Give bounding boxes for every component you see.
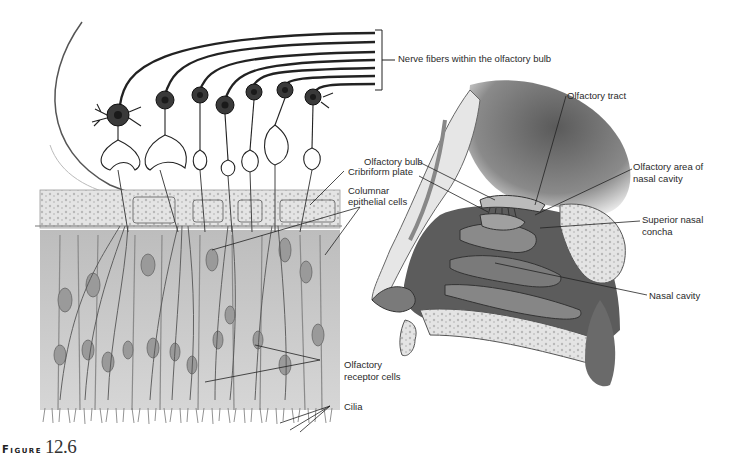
label-nerve-fibers: Nerve fibers within the olfactory bulb bbox=[398, 53, 551, 64]
nasal-cavity-illustration bbox=[372, 80, 647, 386]
label-nasal-cavity: Nasal cavity bbox=[649, 290, 700, 301]
label-cribriform-plate: Cribriform plate bbox=[348, 166, 413, 177]
olfactory-diagram bbox=[0, 0, 730, 460]
figure-number: 12.6 bbox=[45, 436, 76, 457]
label-olfactory-tract: Olfactory tract bbox=[567, 90, 626, 101]
label-receptor-line2: receptor cells bbox=[344, 371, 401, 382]
label-cilia: Cilia bbox=[344, 401, 362, 412]
label-columnar-line2: epithelial cells bbox=[348, 196, 407, 207]
figure-caption: Figure12.6 bbox=[2, 436, 76, 458]
figure-word: Figure bbox=[2, 444, 42, 455]
label-superior-concha-line2: concha bbox=[642, 226, 673, 237]
label-superior-concha-line1: Superior nasal bbox=[642, 214, 703, 225]
label-olfactory-area-line1: Olfactory area of bbox=[633, 161, 703, 172]
label-olfactory-area-line2: nasal cavity bbox=[633, 173, 683, 184]
label-columnar-line1: Columnar bbox=[348, 185, 389, 196]
olfactory-epithelium-illustration bbox=[35, 22, 395, 432]
label-receptor-line1: Olfactory bbox=[344, 359, 382, 370]
